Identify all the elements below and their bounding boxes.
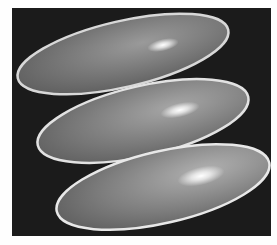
ellipsoids-illustration — [12, 8, 271, 236]
black-background-panel — [12, 8, 271, 236]
